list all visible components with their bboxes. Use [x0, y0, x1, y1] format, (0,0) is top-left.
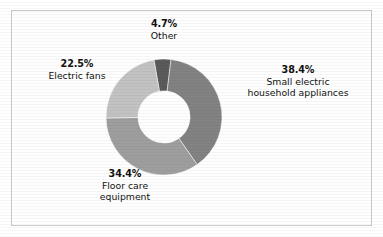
donut-chart-area: 4.7% Other 38.4% Small electric househol… [0, 0, 383, 237]
slice-percent-floor-care: 34.4% [62, 168, 188, 180]
slice-percent-other: 4.7% [118, 18, 210, 30]
slice-name-electric-fans: Electric fans [22, 70, 132, 81]
slice-name-floor-care-line2: equipment [62, 191, 188, 202]
slice-name-other: Other [118, 30, 210, 41]
slice-label-other: 4.7% Other [118, 18, 210, 41]
slice-name-floor-care-line1: Floor care [62, 180, 188, 191]
slice-name-small-electric-line1: Small electric [222, 76, 374, 87]
slice-percent-electric-fans: 22.5% [22, 58, 132, 70]
slice-label-electric-fans: 22.5% Electric fans [22, 58, 132, 81]
slice-label-floor-care-equipment: 34.4% Floor care equipment [62, 168, 188, 202]
slice-percent-small-electric: 38.4% [222, 64, 374, 76]
slice-label-small-electric-household-appliances: 38.4% Small electric household appliance… [222, 64, 374, 98]
donut-slice [106, 117, 197, 175]
slice-name-small-electric-line2: household appliances [222, 87, 374, 98]
